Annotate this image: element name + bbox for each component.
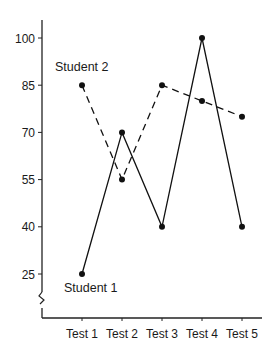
data-point bbox=[239, 224, 245, 230]
x-tick-label: Test 4 bbox=[186, 327, 218, 341]
x-tick-label: Test 2 bbox=[106, 327, 138, 341]
axis-break-icon bbox=[39, 292, 44, 304]
data-point bbox=[119, 129, 125, 135]
data-point bbox=[159, 82, 165, 88]
x-tick-label: Test 3 bbox=[146, 327, 178, 341]
y-tick-label: 25 bbox=[22, 268, 36, 282]
series-label: Student 1 bbox=[64, 281, 118, 295]
data-point bbox=[239, 114, 245, 120]
x-axis-ticks: Test 1Test 2Test 3Test 4Test 5 bbox=[66, 318, 258, 341]
x-tick-label: Test 5 bbox=[226, 327, 258, 341]
y-tick-label: 55 bbox=[22, 173, 36, 187]
data-point bbox=[199, 98, 205, 104]
y-tick-label: 70 bbox=[22, 126, 36, 140]
series-label: Student 2 bbox=[55, 60, 109, 74]
y-tick-label: 40 bbox=[22, 220, 36, 234]
line-chart: 2540557085100 Test 1Test 2Test 3Test 4Te… bbox=[0, 0, 274, 357]
y-tick-label: 100 bbox=[15, 32, 35, 46]
y-axis-ticks: 2540557085100 bbox=[15, 32, 42, 282]
data-point bbox=[119, 177, 125, 183]
data-point bbox=[79, 271, 85, 277]
data-point bbox=[79, 82, 85, 88]
series-line bbox=[82, 85, 242, 179]
x-tick-label: Test 1 bbox=[66, 327, 98, 341]
y-tick-label: 85 bbox=[22, 79, 36, 93]
data-point bbox=[199, 35, 205, 41]
data-point bbox=[159, 224, 165, 230]
series-student-2 bbox=[79, 82, 245, 182]
